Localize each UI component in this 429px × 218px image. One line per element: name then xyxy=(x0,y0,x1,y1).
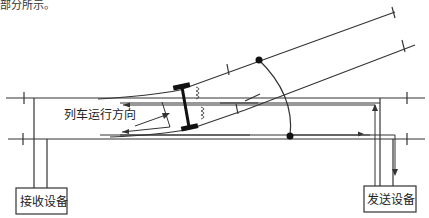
connection-node xyxy=(287,133,294,140)
upper-diverging-rail xyxy=(98,12,395,99)
receiver-label: 接收设备 xyxy=(20,194,68,209)
arrow-head-right xyxy=(358,132,364,137)
spring-icon xyxy=(196,87,199,99)
lower-diverging-rail xyxy=(110,45,415,137)
turnout-diagram: 列车运行方向 接收设备 发送设备 xyxy=(0,0,429,218)
train-direction-arrow-line xyxy=(135,116,163,126)
current-flow-lower xyxy=(290,135,395,172)
arrow-head-right xyxy=(162,113,170,119)
spring-icon xyxy=(201,107,204,119)
switch-rod xyxy=(182,87,189,127)
transmitter-label: 发送设备 xyxy=(367,192,415,207)
connection-node xyxy=(256,57,263,64)
train-direction-label: 列车运行方向 xyxy=(64,107,136,122)
